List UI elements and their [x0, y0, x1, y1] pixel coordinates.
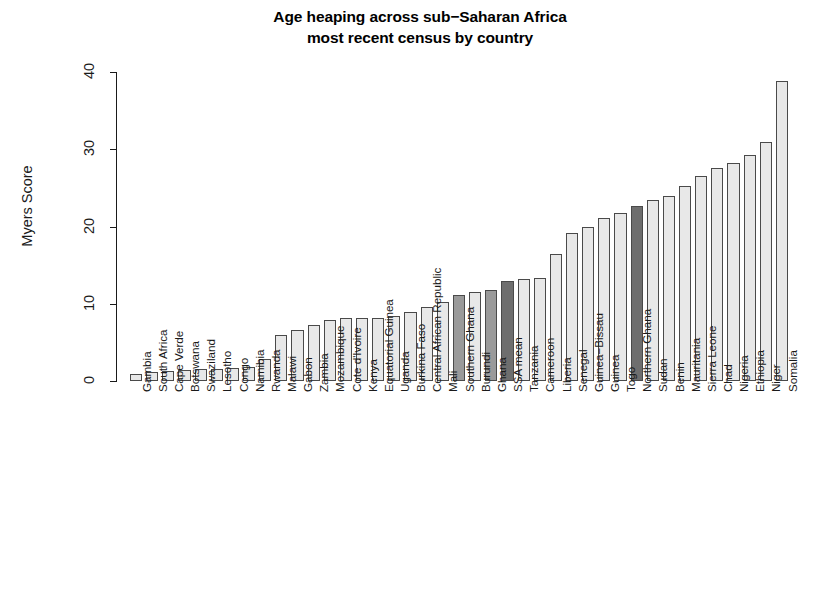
x-axis-label: Equatorial Guinea	[383, 299, 395, 392]
x-axis-label: Burkina Faso	[415, 324, 427, 392]
x-axis-label: Cape Verde	[173, 331, 185, 392]
y-tick-mark-30	[110, 149, 116, 150]
x-axis-label: Tanzania	[528, 346, 540, 392]
bar[interactable]	[727, 163, 739, 381]
y-tick-label-20: 20	[81, 209, 97, 243]
x-axis-label: Zambia	[318, 353, 330, 392]
x-axis-label: Senegal	[577, 349, 589, 392]
x-axis-label: Burundi	[480, 352, 492, 392]
x-axis-label: Southern Ghana	[464, 307, 476, 392]
x-axis-label: Sierra Leone	[706, 326, 718, 392]
x-axis-label: Somalia	[787, 350, 799, 392]
y-tick-mark-40	[110, 72, 116, 73]
x-axis-label: Guinea−Bissau	[593, 313, 605, 392]
x-axis-label: Malawi	[286, 356, 298, 392]
bar[interactable]	[760, 142, 772, 381]
x-axis-label: SSA mean	[512, 337, 524, 392]
x-axis-label: Sudan	[657, 358, 669, 392]
x-axis-label: Niger	[770, 364, 782, 392]
x-axis-label: Liberia	[561, 357, 573, 392]
x-axis-label: Togo	[625, 367, 637, 392]
bar[interactable]	[663, 196, 675, 381]
x-axis-label: Swaziland	[205, 339, 217, 392]
x-axis-label: Chad	[722, 364, 734, 392]
y-tick-label-10: 10	[81, 286, 97, 320]
x-axis-label: Mali	[447, 371, 459, 392]
x-axis-label: Rwanda	[270, 349, 282, 392]
y-tick-label-30: 30	[81, 131, 97, 165]
x-axis-label: Cote d'Ivoire	[351, 327, 363, 392]
x-axis-label: Ethiopia	[754, 350, 766, 392]
x-axis-label: Cameroon	[544, 338, 556, 392]
x-axis-label: Nigeria	[738, 355, 750, 392]
x-axis-label: Botswana	[189, 341, 201, 392]
chart-title-line-2: most recent census by country	[0, 27, 840, 48]
y-tick-label-0: 0	[81, 363, 97, 397]
x-axis-label: Congo	[238, 358, 250, 392]
x-axis-label: Mozambique	[334, 326, 346, 392]
y-tick-mark-0	[110, 381, 116, 382]
x-axis-label: Guinea	[609, 355, 621, 392]
x-axis-label: Mauritania	[690, 338, 702, 392]
x-axis-label: Uganda	[399, 351, 411, 392]
x-axis-label: Kenya	[367, 359, 379, 392]
x-axis-label: Benin	[674, 362, 686, 392]
x-axis-label: South Africa	[157, 329, 169, 392]
y-tick-label-40: 40	[81, 54, 97, 88]
y-axis-title: Myers Score	[19, 146, 35, 266]
x-axis-label: Ghana	[496, 357, 508, 392]
bar[interactable]	[776, 81, 788, 382]
x-axis-label: Central African Republic	[431, 268, 443, 392]
y-tick-mark-20	[110, 227, 116, 228]
x-axis-label: Namibia	[254, 349, 266, 392]
x-axis-label: Gabon	[302, 357, 314, 392]
x-axis-label: Gambia	[141, 351, 153, 392]
chart-title: Age heaping across sub−Saharan Africa mo…	[0, 6, 840, 48]
chart-title-line-1: Age heaping across sub−Saharan Africa	[0, 6, 840, 27]
age-heaping-bar-chart: Age heaping across sub−Saharan Africa mo…	[0, 0, 840, 597]
y-axis-line	[116, 72, 117, 382]
y-tick-mark-10	[110, 304, 116, 305]
x-axis-label: Northern Ghana	[641, 309, 653, 392]
bar[interactable]	[744, 155, 756, 381]
x-axis-label: Lesotho	[221, 351, 233, 392]
